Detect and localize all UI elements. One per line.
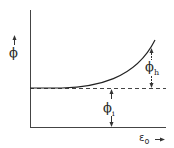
x-axis-arrow-icon bbox=[155, 138, 165, 142]
y-axis-arrow-icon bbox=[13, 35, 17, 45]
y-axis-label: ϕ bbox=[9, 46, 18, 59]
curve bbox=[30, 40, 155, 88]
phi-vs-epsilon-diagram: ϕ ϕh ϕi εo bbox=[0, 0, 174, 148]
phi-h-label: ϕh bbox=[145, 60, 159, 77]
x-axis-label: εo bbox=[139, 133, 149, 146]
phi-i-label: ϕi bbox=[103, 101, 114, 118]
